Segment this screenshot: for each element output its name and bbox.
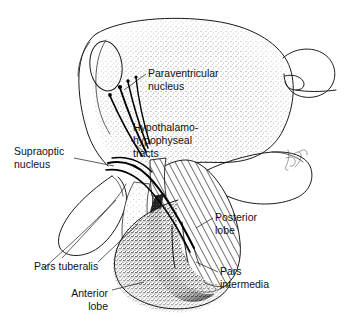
label-line: lobe — [88, 300, 108, 312]
label-line: Pars tuberalis — [34, 260, 98, 272]
label-line: Paraventricular — [148, 67, 219, 79]
label-line: Anterior — [71, 287, 108, 299]
figure-canvas: Paraventricular nucleus Hypothalamo- hyp… — [0, 0, 345, 330]
label-pars-tuberalis: Pars tuberalis — [34, 260, 98, 272]
label-line: lobe — [215, 224, 235, 236]
label-line: Pars — [220, 265, 242, 277]
label-line: Hypothalamo- — [133, 121, 199, 133]
label-line: nucleus — [148, 80, 184, 92]
label-line: hypophyseal — [133, 134, 192, 146]
label-line: Supraoptic — [14, 145, 64, 157]
label-line: tracts — [133, 147, 159, 159]
label-line: intermedia — [220, 278, 269, 290]
anterior-lobe-mass — [0, 0, 345, 330]
label-line: nucleus — [14, 158, 50, 170]
hypothalamus-pituitary-diagram: Paraventricular nucleus Hypothalamo- hyp… — [0, 0, 345, 330]
label-line: Posterior — [215, 211, 258, 223]
